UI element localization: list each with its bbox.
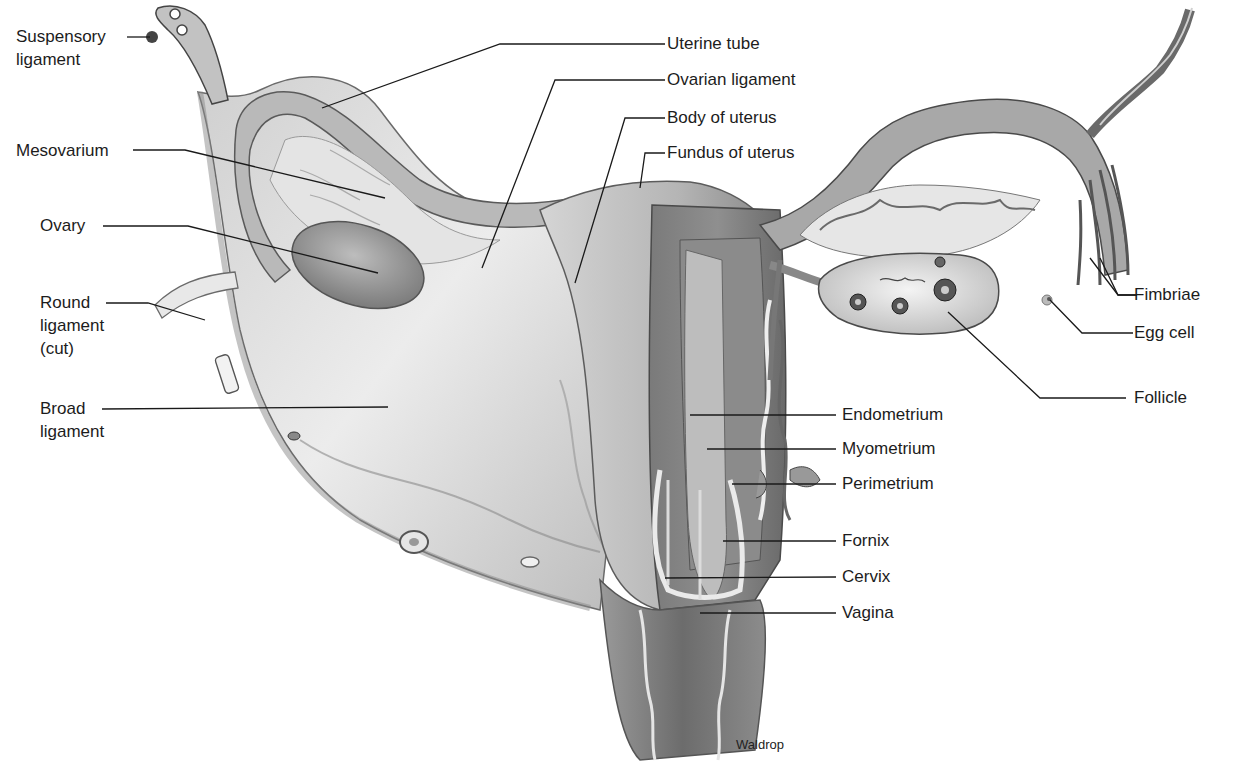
clipped-text-fragment: [40, 0, 100, 1]
label-uterine-tube: Uterine tube: [667, 32, 760, 55]
label-fornix: Fornix: [842, 529, 889, 552]
uterus-section-shape: [649, 205, 820, 610]
label-perimetrium: Perimetrium: [842, 472, 934, 495]
label-body-of-uterus: Body of uterus: [667, 106, 777, 129]
round-ligament-shape: [155, 272, 238, 318]
broad-ligament-shape: [198, 77, 612, 610]
label-cervix: Cervix: [842, 565, 890, 588]
label-broad-ligament: Broad ligament: [40, 397, 130, 443]
label-vagina: Vagina: [842, 601, 894, 624]
anatomy-illustration: [0, 0, 1236, 777]
label-fimbriae: Fimbriae: [1134, 283, 1200, 306]
label-suspensory-ligament: Suspensory ligament: [16, 25, 126, 71]
left-suspensory-ligament-shape: [146, 6, 228, 104]
label-ovary: Ovary: [40, 214, 85, 237]
label-mesovarium: Mesovarium: [16, 139, 109, 162]
label-egg-cell: Egg cell: [1134, 321, 1194, 344]
vagina-shape: [600, 580, 765, 760]
label-fundus-of-uterus: Fundus of uterus: [667, 141, 795, 164]
label-round-ligament: Round ligament (cut): [40, 291, 130, 360]
label-ovarian-ligament: Ovarian ligament: [667, 68, 796, 91]
label-endometrium: Endometrium: [842, 403, 943, 426]
label-follicle: Follicle: [1134, 386, 1187, 409]
illustrator-credit: Waldrop: [736, 737, 784, 752]
right-ovary-shape: [819, 253, 999, 334]
label-myometrium: Myometrium: [842, 437, 936, 460]
